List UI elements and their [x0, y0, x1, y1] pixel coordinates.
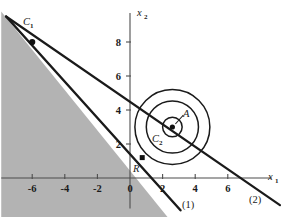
shaded-feasible-region	[1, 11, 167, 217]
y-tick-label-6: 6	[116, 71, 121, 82]
x-tick-label-0: 0	[127, 183, 132, 194]
y-tick-label-8: 8	[116, 37, 121, 48]
x-tick-label-4: 4	[193, 183, 199, 194]
y-axis-label: x	[136, 7, 142, 18]
x-tick-label-6: 6	[225, 183, 230, 194]
x-axis-label: x	[267, 171, 273, 182]
point-marker-c2	[170, 124, 175, 129]
label-line-2: (2)	[249, 194, 262, 206]
label-point-a: A	[182, 108, 190, 119]
coordinate-plot: -6-4-20246 8642 x 1 x 2 C 1 C 2 A R (1) …	[0, 0, 297, 219]
x-axis-label-subscript: 1	[275, 177, 279, 185]
label-line-1: (1)	[182, 199, 195, 211]
point-marker-c1	[29, 39, 35, 45]
x-tick-label--6: -6	[28, 183, 37, 194]
label-region-r: R	[132, 163, 140, 174]
point-marker-r	[140, 155, 145, 160]
y-tick-label-4: 4	[116, 105, 122, 116]
figure-container: -6-4-20246 8642 x 1 x 2 C 1 C 2 A R (1) …	[0, 0, 297, 219]
label-c2-subscript: 2	[159, 139, 163, 147]
y-axis-label-subscript: 2	[144, 13, 148, 21]
label-c1-subscript: 1	[30, 22, 34, 30]
x-tick-label--2: -2	[93, 183, 102, 194]
x-tick-label--4: -4	[60, 183, 69, 194]
